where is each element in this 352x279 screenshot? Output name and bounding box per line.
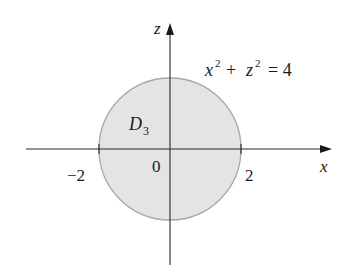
tick-label-neg2: −2 xyxy=(67,166,85,185)
x-axis-label: x xyxy=(319,157,328,176)
equation-equals-four: = 4 xyxy=(268,60,292,80)
equation-plus: + xyxy=(226,60,236,80)
z-axis-arrow-icon xyxy=(166,23,174,35)
diagram-svg: z x 0 −2 2 D 3 x 2 + z 2 = 4 xyxy=(0,0,352,279)
region-label-subscript: 3 xyxy=(143,124,149,138)
circle-equation: x 2 + z 2 = 4 xyxy=(204,57,292,80)
diagram-canvas: z x 0 −2 2 D 3 x 2 + z 2 = 4 xyxy=(0,0,352,279)
equation-exponent-z: 2 xyxy=(255,57,261,69)
tick-label-pos2: 2 xyxy=(245,166,254,185)
region-label: D xyxy=(128,114,142,134)
x-axis-arrow-icon xyxy=(320,145,332,153)
equation-var-x: x xyxy=(204,60,213,80)
z-axis-label: z xyxy=(153,19,161,38)
equation-var-z: z xyxy=(245,60,253,80)
equation-exponent-x: 2 xyxy=(215,57,221,69)
origin-label: 0 xyxy=(152,157,161,176)
